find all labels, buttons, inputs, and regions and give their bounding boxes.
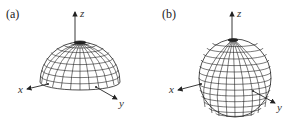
panel-b: (b) [145, 0, 290, 123]
y-axis [96, 87, 117, 99]
z-axis-label: z [80, 7, 84, 19]
panel-a: (a) [0, 0, 145, 123]
hemisphere-mesh [40, 41, 120, 90]
x-axis-label: x [169, 83, 174, 95]
y-axis-label: y [119, 97, 124, 109]
x-axis-label: x [18, 83, 23, 95]
z-axis-label: z [237, 7, 241, 19]
y-axis-label: y [277, 101, 282, 113]
x-axis [178, 84, 201, 90]
ellipsoid-mesh [199, 39, 271, 118]
x-axis [27, 84, 48, 89]
ellipsoid-wireframe [145, 0, 290, 123]
